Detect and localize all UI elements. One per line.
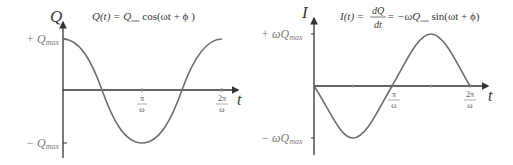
svg-text:2π: 2π xyxy=(218,94,226,103)
left-x-axis-label: t xyxy=(237,91,242,108)
current-equation: I(t) = dQ dt = −ωQmax sin(ωt + ϕ) xyxy=(339,5,480,30)
left-ytick-neg: − Qmax xyxy=(26,136,60,151)
left-plot: Q t Q(t) = Qmax cos(ωt + ϕ ) + Qmax − Qm… xyxy=(26,7,242,158)
right-ytick-neg: − ωQmax xyxy=(261,131,303,146)
svg-text:2π: 2π xyxy=(466,90,474,99)
right-ytick-pos: + ωQmax xyxy=(261,27,303,42)
right-y-axis-label: I xyxy=(301,3,309,22)
svg-text:ω: ω xyxy=(391,101,396,110)
svg-text:ω: ω xyxy=(219,105,224,114)
svg-text:ω: ω xyxy=(139,105,144,114)
left-ytick-pos: + Qmax xyxy=(26,32,60,47)
right-xtick-pi: π ω xyxy=(388,90,400,110)
right-x-axis-label: t xyxy=(488,87,493,104)
svg-text:π: π xyxy=(392,90,396,99)
svg-text:dQ: dQ xyxy=(372,5,385,16)
right-xtick-2pi: 2π ω xyxy=(464,90,476,110)
left-xtick-2pi: 2π ω xyxy=(216,94,228,114)
svg-text:ω: ω xyxy=(467,101,472,110)
svg-text:= −ωQmax sin(ωt + ϕ): = −ωQmax sin(ωt + ϕ) xyxy=(387,10,480,23)
left-y-axis-label: Q xyxy=(50,7,62,26)
left-xtick-pi: π ω xyxy=(137,94,147,114)
right-plot: I t I(t) = dQ dt = −ωQmax sin(ωt + ϕ) + … xyxy=(261,3,493,155)
charge-equation: Q(t) = Qmax cos(ωt + ϕ ) xyxy=(92,10,195,23)
svg-text:I(t) =: I(t) = xyxy=(339,10,364,23)
svg-text:dt: dt xyxy=(374,19,382,30)
svg-text:π: π xyxy=(140,94,144,103)
